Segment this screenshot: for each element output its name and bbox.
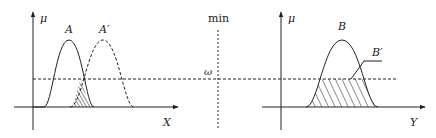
left-y-axis-label: μ (40, 12, 47, 25)
omega-label: ω (204, 66, 212, 77)
min-operator: min ω (204, 12, 229, 130)
left-x-axis-label: X (162, 116, 172, 129)
clipped-B-prime-leader (351, 61, 382, 79)
curve-B-label: B (337, 20, 346, 33)
min-label: min (208, 12, 229, 25)
right-x-axis-label: Y (410, 116, 419, 129)
curve-A-prime-label: A′ (98, 23, 110, 36)
curve-A-label: A (64, 23, 73, 36)
clipped-B-prime-label: B′ (371, 46, 383, 59)
right-y-axis-label: μ (288, 12, 295, 25)
right-panel: μ Y B B′ (262, 12, 425, 130)
left-panel: μ X A A′ (14, 12, 178, 130)
clipped-B-prime-hatch (300, 79, 385, 107)
fuzzy-inference-diagram: μ X A A′ min ω μ Y B B′ (0, 0, 436, 138)
